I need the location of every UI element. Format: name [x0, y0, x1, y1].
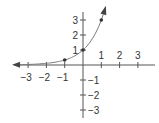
y-tick-label: −2	[88, 90, 100, 101]
x-tick-label: 3	[135, 50, 141, 61]
x-tick-label: −3	[20, 72, 32, 83]
left-arrowhead	[12, 62, 20, 68]
y-tick-label: 3	[72, 15, 78, 26]
x-tick-label: −1	[57, 72, 69, 83]
axes	[14, 12, 155, 118]
curve	[12, 6, 106, 68]
exponential-graph: −3−2−1123321−1−2−3	[0, 0, 159, 123]
data-point	[81, 48, 85, 52]
x-tick-label: 2	[117, 50, 123, 61]
data-point	[100, 18, 104, 22]
top-arrowhead	[100, 6, 106, 15]
data-point	[63, 58, 67, 62]
y-tick-label: 2	[72, 30, 78, 41]
x-tick-label: −2	[39, 72, 51, 83]
y-tick-label: −3	[88, 105, 100, 116]
y-tick-label: −1	[88, 75, 100, 86]
x-tick-label: 1	[99, 50, 105, 61]
curve-line	[18, 8, 105, 65]
